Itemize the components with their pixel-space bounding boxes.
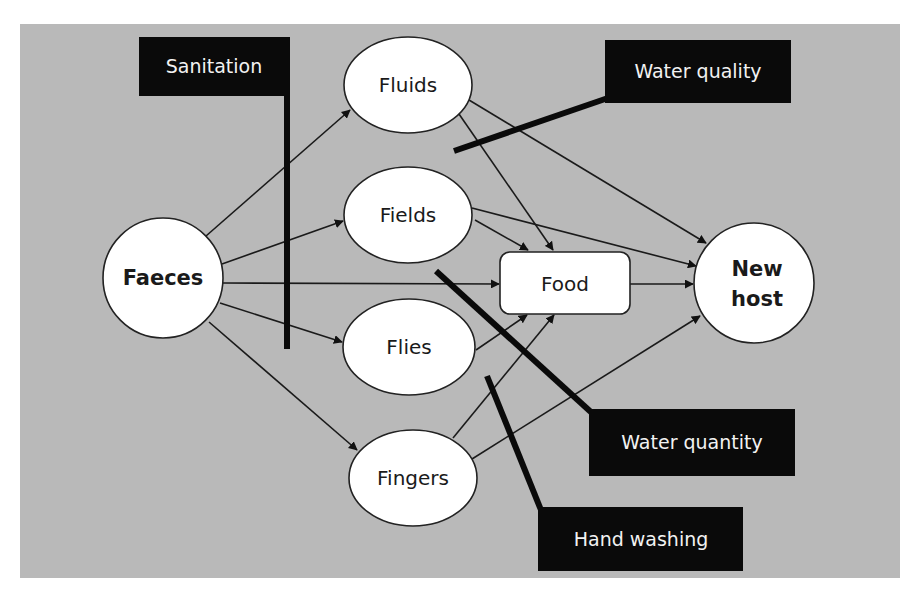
edge-fields-food <box>475 220 528 250</box>
barrier-hand-washing: Hand washing <box>538 507 743 571</box>
edge-faeces-fluids <box>206 110 350 236</box>
node-flies: Flies <box>343 299 475 395</box>
edge-faeces-food <box>223 283 499 284</box>
barrier-water-quality: Water quality <box>605 40 791 103</box>
node-fields: Fields <box>344 167 472 263</box>
node-fluids: Fluids <box>344 37 472 133</box>
node-flies-label: Flies <box>386 335 431 359</box>
barrier-water-quantity-label: Water quantity <box>621 431 762 453</box>
hand-washing-bar <box>487 376 541 510</box>
f-diagram: Faeces Fluids Fields Flies Fingers Food … <box>0 0 921 592</box>
edge-faeces-fields <box>222 221 343 264</box>
node-fluids-label: Fluids <box>379 73 437 97</box>
barrier-sanitation: Sanitation <box>139 37 290 96</box>
node-fields-label: Fields <box>380 203 437 227</box>
barrier-hand-washing-label: Hand washing <box>574 528 709 550</box>
edges <box>206 100 706 459</box>
node-food: Food <box>500 252 630 314</box>
node-faeces: Faeces <box>103 218 223 338</box>
edge-faeces-fingers <box>209 322 357 450</box>
node-food-label: Food <box>541 272 589 296</box>
barrier-water-quality-label: Water quality <box>634 60 761 82</box>
node-faeces-label: Faeces <box>123 266 204 290</box>
barrier-sanitation-label: Sanitation <box>166 55 263 77</box>
node-fingers-label: Fingers <box>377 466 449 490</box>
node-fingers: Fingers <box>349 430 477 526</box>
barrier-water-quantity: Water quantity <box>589 409 795 476</box>
node-new-host: New host <box>694 223 814 343</box>
edge-faeces-flies <box>220 303 342 342</box>
water-quality-bar <box>454 98 608 151</box>
edge-fluids-newhost <box>469 100 706 243</box>
node-new-host-label-line2: host <box>731 287 783 311</box>
node-new-host-label-line1: New <box>731 257 782 281</box>
